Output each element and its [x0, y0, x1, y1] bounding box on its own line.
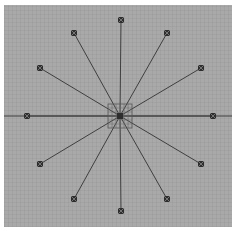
- spoke-line: [74, 116, 120, 199]
- node-marker-icon[interactable]: [71, 30, 77, 36]
- node-marker-icon[interactable]: [37, 161, 43, 167]
- node-marker-icon[interactable]: [164, 30, 170, 36]
- node-marker-icon[interactable]: [210, 113, 216, 119]
- spoke-line: [120, 116, 167, 199]
- node-marker-icon[interactable]: [164, 196, 170, 202]
- spoke-line: [120, 33, 167, 116]
- hub-grid: [108, 104, 132, 128]
- node-marker-icon[interactable]: [198, 65, 204, 71]
- node-marker-icon[interactable]: [71, 196, 77, 202]
- node-marker-icon[interactable]: [118, 17, 124, 23]
- spoke-line: [74, 33, 120, 116]
- node-marker-icon[interactable]: [198, 161, 204, 167]
- spoke-line: [120, 20, 121, 116]
- hub-center-marker[interactable]: [117, 113, 123, 119]
- node-marker-icon[interactable]: [24, 113, 30, 119]
- node-marker-icon[interactable]: [37, 65, 43, 71]
- radial-star-diagram: [0, 0, 235, 231]
- spoke-line: [120, 116, 121, 211]
- node-marker-icon[interactable]: [118, 208, 124, 214]
